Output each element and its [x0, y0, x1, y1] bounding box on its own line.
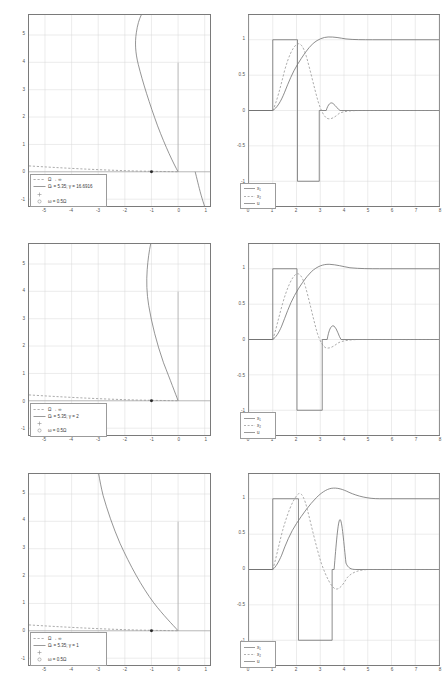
legend-dashed-line-icon [33, 406, 46, 413]
ytick-label: 0.5 [232, 531, 245, 536]
legend-entry: Ωₗ = 5.35; γ = 16.6916 [33, 183, 104, 190]
ytick-label: 0.5 [232, 73, 245, 78]
ytick-label: 1 [14, 372, 25, 377]
panel-top-right: 0 1 2 3 4 5 6 7 8 -1 -0.5 0 0.5 1 x₁ [224, 0, 447, 229]
ytick-label: 2 [14, 115, 25, 120]
ytick-label: 0.5 [232, 302, 245, 307]
legend-label: x₁ [257, 415, 261, 422]
panel-bottom-left: -5 -4 -3 -2 -1 0 1 -1 0 1 2 3 4 5 Ω → ∞ [0, 459, 223, 688]
xtick-label: -1 [150, 209, 154, 214]
legend-bottom-right: x₁ x₂ u [240, 641, 276, 668]
legend-solid-line-icon [243, 429, 255, 436]
xtick-label: 2 [295, 209, 298, 214]
legend-solid-line-icon [243, 185, 255, 192]
xtick-label: 1 [204, 209, 207, 214]
figure-row-3: -5 -4 -3 -2 -1 0 1 -1 0 1 2 3 4 5 Ω → ∞ [0, 459, 447, 688]
xtick-label: 6 [391, 668, 394, 673]
legend-entry: Ω → ∞ [33, 635, 104, 642]
legend-label: ω = 0.5Ω [48, 427, 66, 434]
xtick-label: -2 [123, 668, 127, 673]
legend-circle-marker-icon [33, 427, 46, 434]
panel-middle-right: 0 1 2 3 4 5 6 7 8 -1 -0.5 0 0.5 1 x₁ [224, 229, 447, 458]
legend-solid-line-icon [243, 415, 255, 422]
xtick-label: 1 [204, 668, 207, 673]
legend-middle-right: x₁ x₂ u [240, 412, 276, 439]
ytick-label: -1 [14, 427, 25, 432]
legend-label: u [257, 200, 260, 207]
xtick-label: 4 [343, 668, 346, 673]
legend-label: x₁ [257, 185, 261, 192]
ytick-label: 0 [14, 170, 25, 175]
ytick-label: 0 [232, 108, 245, 113]
legend-entry: x₁ [243, 415, 273, 422]
series-lower-branch [195, 172, 204, 206]
legend-entry: x₁ [243, 644, 273, 651]
legend-circle-marker-icon [33, 198, 46, 205]
legend-entry: Ω → ∞ [33, 405, 104, 412]
legend-label: x₂ [257, 422, 261, 429]
xtick-label: 1 [271, 668, 274, 673]
xtick-label: -3 [96, 438, 100, 443]
xtick-label: 2 [295, 668, 298, 673]
xtick-label: -4 [69, 209, 73, 214]
legend-entry: x₁ [243, 185, 273, 192]
legend-label: x₂ [257, 193, 261, 200]
legend-label: u [257, 429, 260, 436]
legend-entry: x₂ [243, 651, 273, 658]
ytick-label: 1 [232, 37, 245, 42]
figure-root: -5 -4 -3 -2 -1 0 1 -1 0 1 2 3 4 5 Ω → ∞ [0, 0, 447, 688]
ytick-label: 1 [232, 495, 245, 500]
pole-marker [150, 400, 153, 403]
ytick-label: 2 [14, 573, 25, 578]
figure-row-1: -5 -4 -3 -2 -1 0 1 -1 0 1 2 3 4 5 Ω → ∞ [0, 0, 447, 229]
series-omega-finite [99, 474, 178, 631]
legend-dashed-line-icon [243, 422, 255, 429]
legend-plus-marker-icon [33, 191, 46, 198]
legend-label: Ω → ∞ [48, 635, 62, 642]
legend-entry: x₂ [243, 422, 273, 429]
plot-top-right [249, 15, 439, 206]
ytick-label: 1 [14, 601, 25, 606]
legend-entry: Ωₗ = 5.35; γ = 1 [33, 642, 104, 649]
legend-dashed-line-icon [243, 193, 255, 200]
ytick-label: 5 [14, 491, 25, 496]
ytick-label: 5 [14, 32, 25, 37]
legend-solid-line-icon [33, 413, 46, 420]
xtick-label: 4 [343, 209, 346, 214]
legend-entry: ω = 0.5Ω [33, 198, 104, 205]
ytick-label: 4 [14, 60, 25, 65]
ytick-label: 5 [14, 261, 25, 266]
xtick-label: -5 [42, 209, 46, 214]
panel-top-left: -5 -4 -3 -2 -1 0 1 -1 0 1 2 3 4 5 Ω → ∞ [0, 0, 223, 229]
ytick-label: -0.5 [232, 603, 245, 608]
legend-bottom-left: Ω → ∞ Ωₗ = 5.35; γ = 1 [30, 632, 107, 666]
legend-entry [33, 190, 104, 197]
xtick-label: 4 [343, 438, 346, 443]
xtick-label: 0 [177, 209, 180, 214]
xtick-label: 0 [247, 668, 250, 673]
xtick-label: 3 [319, 438, 322, 443]
legend-entry: Ω → ∞ [33, 176, 104, 183]
plot-middle-right [249, 244, 439, 435]
panel-bottom-right: 0 1 2 3 4 5 6 7 8 -1 -0.5 0 0.5 1 x₁ [224, 459, 447, 688]
ytick-label: 4 [14, 518, 25, 523]
pole-marker [150, 170, 153, 173]
legend-circle-marker-icon [33, 656, 46, 663]
xtick-label: -4 [69, 438, 73, 443]
legend-entry: Ωₗ = 5.35; γ = 2 [33, 413, 104, 420]
pole-marker [150, 629, 153, 632]
plot-bottom-right [249, 474, 439, 665]
series-omega-infinity [29, 166, 178, 172]
xtick-label: -4 [69, 668, 73, 673]
legend-dashed-line-icon [33, 635, 46, 642]
legend-dashed-line-icon [33, 176, 46, 183]
xtick-label: 0 [247, 209, 250, 214]
legend-plus-marker-icon [33, 420, 46, 427]
xtick-label: -3 [96, 209, 100, 214]
xtick-label: 8 [439, 438, 442, 443]
xtick-label: -5 [42, 668, 46, 673]
legend-label: Ωₗ = 5.35; γ = 16.6916 [48, 183, 92, 190]
figure-row-2: -5 -4 -3 -2 -1 0 1 -1 0 1 2 3 4 5 Ω → ∞ [0, 229, 447, 458]
xtick-label: 5 [367, 209, 370, 214]
xtick-label: 8 [439, 668, 442, 673]
